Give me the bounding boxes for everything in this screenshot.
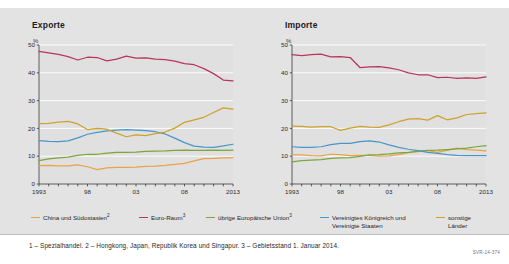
svg-text:98: 98 xyxy=(84,188,91,195)
svg-text:30: 30 xyxy=(281,97,288,104)
legend-label-uk-us: Vereinigtes Königreich und xyxy=(332,214,406,221)
source-code: SVR-14-374 xyxy=(473,250,500,255)
svg-text:10: 10 xyxy=(28,152,35,159)
svg-text:20: 20 xyxy=(28,125,35,132)
svg-text:0: 0 xyxy=(285,180,289,187)
svg-text:03: 03 xyxy=(133,188,140,195)
chart-importe: 0102030405019939803082013 xyxy=(253,8,509,204)
figure-area: Exporte % 0102030405019939803082013 Impo… xyxy=(0,8,509,234)
svg-text:0: 0 xyxy=(32,180,36,187)
svg-text:10: 10 xyxy=(281,152,288,159)
footnote-text: 1 – Spezialhandel. 2 – Hongkong, Japan, … xyxy=(29,242,339,249)
legend-label-sonstige-line2: Länder xyxy=(448,222,471,230)
svg-text:50: 50 xyxy=(281,41,288,48)
legend-sup-china: 2 xyxy=(107,213,110,218)
legend-label-uk-us-line2: Vereinigte Staaten xyxy=(332,222,406,230)
legend-swatch-sonstige xyxy=(436,217,445,218)
legend-sup-euroraum: 3 xyxy=(183,213,186,218)
svg-text:1993: 1993 xyxy=(32,188,46,195)
svg-text:98: 98 xyxy=(337,188,344,195)
legend-swatch-uk-us xyxy=(320,217,329,218)
legend-label-uebrige-eu: übrige Europäische Union xyxy=(218,214,289,221)
legend-swatch-euroraum xyxy=(139,217,148,218)
footnote-divider xyxy=(0,234,509,235)
svg-text:1993: 1993 xyxy=(285,188,299,195)
chart-exporte: 0102030405019939803082013 xyxy=(0,8,250,204)
legend-item-uk-us: Vereinigtes Königreich und Vereinigte St… xyxy=(320,214,406,229)
legend-swatch-uebrige-eu xyxy=(206,217,215,218)
svg-text:40: 40 xyxy=(281,69,288,76)
footnote-area: 1 – Spezialhandel. 2 – Hongkong, Japan, … xyxy=(0,234,509,264)
svg-text:50: 50 xyxy=(28,41,35,48)
legend-item-china: China und Südostasien2 xyxy=(31,214,110,222)
legend-swatch-china xyxy=(31,217,40,218)
legend-label-sonstige: sonstige xyxy=(448,214,471,221)
svg-text:03: 03 xyxy=(386,188,393,195)
svg-text:2013: 2013 xyxy=(479,188,493,195)
svg-text:40: 40 xyxy=(28,69,35,76)
top-margin xyxy=(0,0,509,8)
legend-label-euroraum: Euro-Raum xyxy=(151,214,183,221)
legend-item-uebrige-eu: übrige Europäische Union3 xyxy=(206,214,292,222)
legend-sup-uebrige-eu: 3 xyxy=(289,213,292,218)
svg-text:30: 30 xyxy=(28,97,35,104)
svg-text:08: 08 xyxy=(181,188,188,195)
legend-item-euroraum: Euro-Raum3 xyxy=(139,214,185,222)
svg-text:20: 20 xyxy=(281,125,288,132)
svg-text:2013: 2013 xyxy=(226,188,240,195)
legend-label-china: China und Südostasien xyxy=(43,214,107,221)
svg-text:08: 08 xyxy=(434,188,441,195)
legend-item-sonstige: sonstige Länder xyxy=(436,214,471,229)
